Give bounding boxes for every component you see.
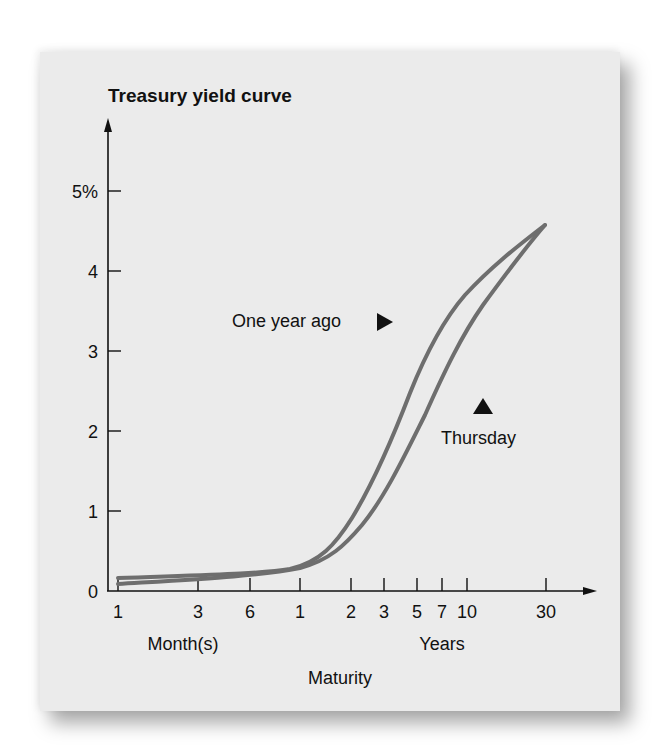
- x-axis-arrow-icon: [583, 587, 597, 595]
- x-tick-label: 5: [412, 602, 422, 622]
- y-tick-label: 2: [88, 422, 98, 442]
- y-tick-label: 3: [88, 342, 98, 362]
- triangle-right-icon: [377, 313, 393, 331]
- y-tick-label: 0: [88, 582, 98, 602]
- annotation-thursday: Thursday: [441, 428, 516, 448]
- x-tick-label: 3: [193, 602, 203, 622]
- y-tick-label: 5%: [72, 182, 98, 202]
- x-tick-label: 1: [113, 602, 123, 622]
- y-tick-label: 4: [88, 262, 98, 282]
- triangle-up-icon: [473, 398, 493, 414]
- years-group-label: Years: [419, 634, 464, 654]
- y-tick-labels: 0 1 2 3 4 5%: [72, 182, 98, 602]
- x-tick-label: 7: [437, 602, 447, 622]
- yield-curve-chart: Treasury yield curve 0 1 2 3 4 5% 1 3 6: [0, 0, 669, 749]
- x-tick-labels: 1 3 6 1 2 3 5 7 10 30: [113, 602, 556, 622]
- x-tick-label: 1: [295, 602, 305, 622]
- annotation-one-year-ago: One year ago: [232, 311, 341, 331]
- x-tick-label: 6: [245, 602, 255, 622]
- y-ticks: [108, 191, 121, 511]
- x-tick-label: 30: [536, 602, 556, 622]
- x-axis-title: Maturity: [308, 668, 372, 688]
- x-tick-label: 10: [457, 602, 477, 622]
- months-group-label: Month(s): [147, 634, 218, 654]
- chart-title: Treasury yield curve: [108, 85, 292, 106]
- y-tick-label: 1: [88, 502, 98, 522]
- x-tick-label: 3: [379, 602, 389, 622]
- x-tick-label: 2: [346, 602, 356, 622]
- y-axis-arrow-icon: [104, 118, 112, 132]
